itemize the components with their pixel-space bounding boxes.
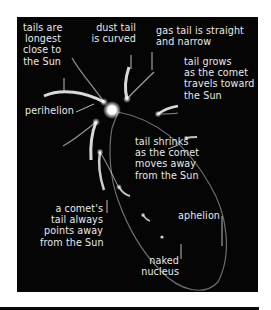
label-tail-shrinks: tail shrinks as the comet moves away fro… [135, 136, 207, 181]
comet-outgoing-3 [116, 184, 130, 196]
comet-outgoing-1 [63, 118, 100, 160]
label-aphelion: aphelion [178, 210, 228, 221]
comet-outgoing-2 [97, 149, 119, 191]
label-tails-longest: tails are longest close to the Sun [23, 22, 61, 67]
comet-incoming [155, 106, 179, 118]
label-tail-points-away: a comet's tail always points away from t… [40, 203, 103, 248]
label-dust-tail: dust tail is curved [84, 22, 136, 44]
comet-top [123, 67, 154, 103]
label-naked-nucleus: naked nucleus [141, 255, 179, 277]
naked-nucleus-dot [160, 235, 163, 238]
comet-outgoing-4 [141, 213, 151, 222]
label-tail-grows: tail grows as the comet travels toward t… [184, 56, 258, 101]
label-gas-tail: gas tail is straight and narrow [156, 25, 256, 47]
label-perihelion: perihelion [25, 105, 77, 116]
